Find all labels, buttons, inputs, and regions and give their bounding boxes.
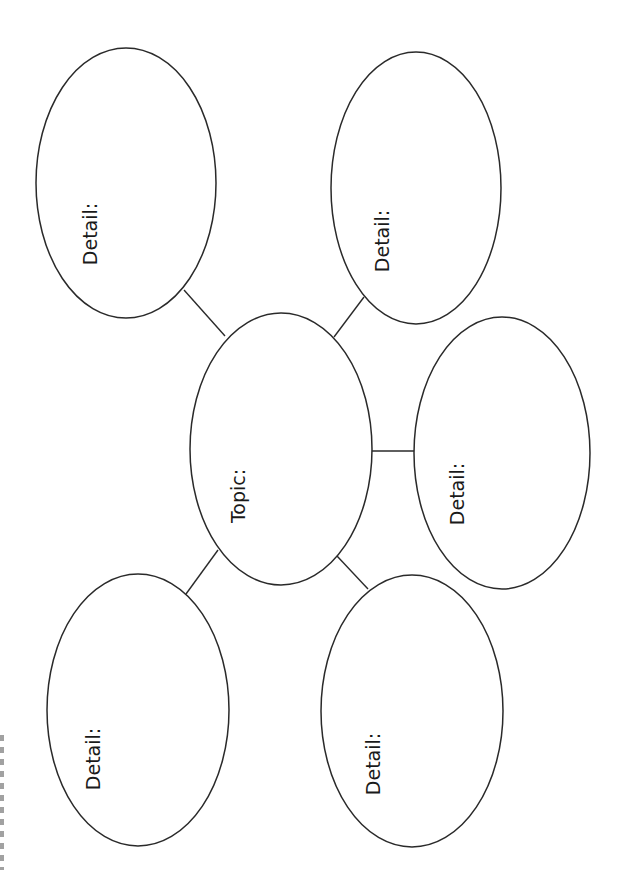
detail-label: Detail: [79, 203, 101, 265]
topic-label: Topic: [227, 469, 249, 524]
detail-label: Detail: [371, 210, 393, 272]
connector-top-right [334, 297, 364, 337]
web-diagram: Detail: Detail: Detail: Detail: Detail: … [0, 0, 622, 877]
detail-node-top-left[interactable]: Detail: [36, 48, 216, 318]
connector-bottom-middle [337, 556, 368, 589]
detail-node-right[interactable]: Detail: [414, 317, 590, 589]
connector-top-left [184, 290, 225, 336]
connector-bottom-left [186, 550, 218, 594]
detail-label: Detail: [362, 733, 384, 795]
detail-node-top-right[interactable]: Detail: [331, 52, 501, 324]
detail-node-bottom-left[interactable]: Detail: [47, 574, 229, 846]
detail-node-bottom-middle[interactable]: Detail: [321, 575, 503, 847]
topic-node[interactable]: Topic: [190, 313, 372, 585]
detail-label: Detail: [82, 728, 104, 790]
detail-label: Detail: [446, 463, 468, 525]
